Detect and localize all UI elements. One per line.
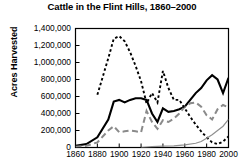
x-axis-tick-label: 2000 [214, 150, 244, 159]
chart-figure: Cattle in the Flint Hills, 1860–2000 Acr… [0, 0, 244, 164]
x-axis-tick-labels: 18601880190019201940196019802000 [0, 0, 244, 164]
